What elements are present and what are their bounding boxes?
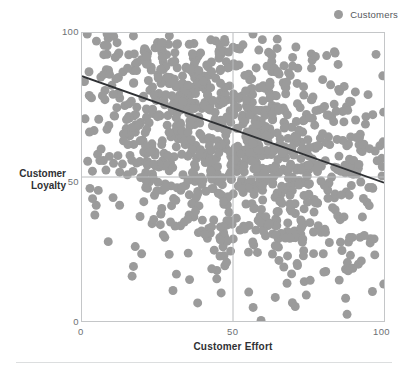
x-axis-title: Customer Effort [81, 341, 385, 352]
scatter-chart: Customers 100 50 0 0 50 100 Customer Loy… [0, 0, 408, 369]
footer-divider [16, 362, 392, 363]
x-axis-tick-50: 50 [227, 326, 238, 337]
chart-legend[interactable]: Customers [334, 6, 398, 22]
y-axis-title: Customer Loyalty [0, 168, 66, 192]
trend-line [82, 76, 384, 183]
legend-item-label-customers: Customers [350, 9, 398, 20]
x-axis-tick-0: 0 [78, 326, 84, 337]
trendline-layer [82, 33, 384, 321]
y-axis-tick-100: 100 [62, 26, 79, 37]
legend-customers-marker-icon [334, 10, 343, 19]
plot-area [81, 32, 385, 322]
x-axis-tick-100: 100 [373, 326, 390, 337]
y-axis-tick-50: 50 [68, 176, 79, 187]
y-axis-title-line2: Loyalty [0, 180, 66, 192]
y-axis-title-line1: Customer [0, 168, 66, 180]
